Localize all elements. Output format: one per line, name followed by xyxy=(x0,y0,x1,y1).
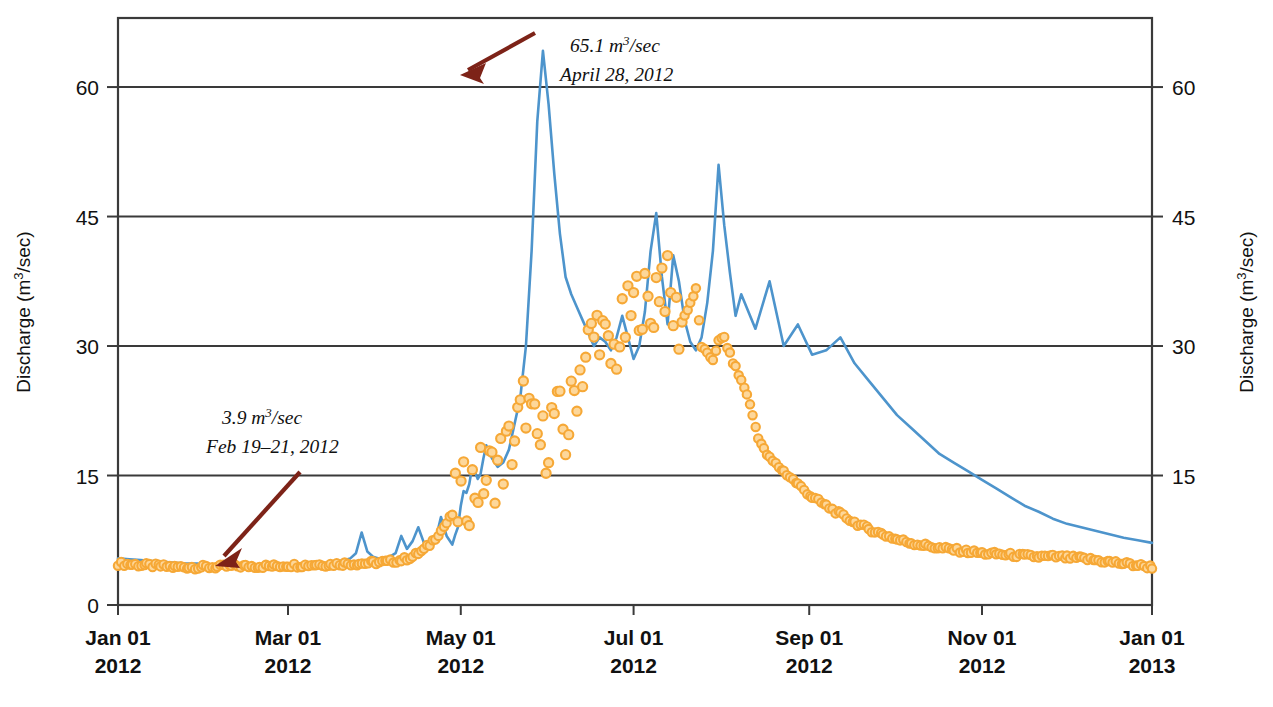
y-axis-title-left-post: /sec) xyxy=(13,231,34,272)
orange-data-point xyxy=(604,331,613,340)
y-tick-label-left-15: 15 xyxy=(76,465,99,488)
x-tick-label-month-0: Jan 01 xyxy=(85,626,151,649)
y-axis-title-right-post: /sec) xyxy=(1236,231,1257,272)
orange-data-point xyxy=(663,251,672,260)
orange-data-point xyxy=(751,423,759,431)
y-tick-label-left-30: 30 xyxy=(76,335,99,358)
orange-data-point xyxy=(538,411,547,420)
orange-data-point xyxy=(652,273,661,282)
orange-data-point xyxy=(507,460,516,469)
discharge-hydrograph-chart: 015304560 15304560 Jan 012012Mar 012012M… xyxy=(0,0,1273,707)
y-tick-label-left-45: 45 xyxy=(76,206,99,229)
y-axis-title-right: Discharge (m3/sec) xyxy=(1234,231,1257,392)
x-tick-label-year-5: 2012 xyxy=(959,654,1006,677)
y-axis-title-right-sup: 3 xyxy=(1234,272,1249,279)
orange-data-point xyxy=(575,365,584,374)
orange-data-point xyxy=(456,476,465,485)
svg-text:Discharge (m3/sec): Discharge (m3/sec) xyxy=(1234,231,1257,392)
orange-data-point xyxy=(709,356,717,364)
x-tick-label-month-5: Nov 01 xyxy=(948,626,1017,649)
x-tick-label-month-6: Jan 01 xyxy=(1119,626,1185,649)
orange-data-point xyxy=(564,430,573,439)
x-tick-label-month-2: May 01 xyxy=(426,626,496,649)
orange-data-point xyxy=(660,307,669,316)
y-axis-title-left-sup: 3 xyxy=(11,272,26,279)
x-tick-label-year-0: 2012 xyxy=(95,654,142,677)
orange-data-point xyxy=(626,311,635,320)
orange-data-point xyxy=(1148,564,1156,572)
orange-data-point xyxy=(541,469,550,478)
orange-data-point xyxy=(544,458,553,467)
orange-data-point xyxy=(581,353,590,362)
x-tick-label-year-3: 2012 xyxy=(610,654,657,677)
orange-data-point xyxy=(748,411,756,419)
orange-data-point xyxy=(561,450,570,459)
y-tick-label-left-60: 60 xyxy=(76,76,99,99)
peak-annotation-line2: April 28, 2012 xyxy=(558,64,673,85)
y-tick-label-right-45: 45 xyxy=(1172,206,1195,229)
orange-data-point xyxy=(615,342,624,351)
y-tick-label-left-0: 0 xyxy=(87,594,99,617)
orange-data-point xyxy=(720,333,728,341)
x-tick-label-year-4: 2012 xyxy=(786,654,833,677)
orange-data-point xyxy=(519,376,528,385)
x-tick-label-year-2: 2012 xyxy=(437,654,484,677)
orange-data-point xyxy=(657,263,666,272)
x-tick-label-year-6: 2013 xyxy=(1129,654,1176,677)
orange-data-point xyxy=(746,400,754,408)
orange-data-point xyxy=(516,395,525,404)
orange-data-point xyxy=(621,333,630,342)
orange-data-point xyxy=(731,362,739,370)
orange-data-point xyxy=(629,288,638,297)
low-flow-annotation-line2: Feb 19–21, 2012 xyxy=(205,436,339,457)
y-axis-title-left-pre: Discharge (m xyxy=(13,280,34,393)
orange-data-point xyxy=(459,457,468,466)
orange-data-point xyxy=(672,293,681,302)
low-flow-annotation-line1: 3.9 m3/sec xyxy=(221,405,303,428)
orange-data-point xyxy=(695,316,703,324)
x-tick-label-year-1: 2012 xyxy=(265,654,312,677)
orange-data-point xyxy=(555,387,564,396)
orange-data-point xyxy=(482,476,491,485)
orange-data-point xyxy=(655,297,664,306)
orange-data-point xyxy=(589,333,598,342)
orange-data-point xyxy=(490,499,499,508)
orange-data-point xyxy=(504,421,513,430)
orange-data-point xyxy=(536,440,545,449)
orange-data-point xyxy=(743,390,751,398)
orange-data-point xyxy=(493,456,502,465)
orange-data-point xyxy=(692,284,700,292)
orange-data-point xyxy=(618,294,627,303)
x-tick-label-month-3: Jul 01 xyxy=(604,626,664,649)
orange-data-point xyxy=(510,436,519,445)
svg-text:Discharge (m3/sec): Discharge (m3/sec) xyxy=(11,231,34,392)
orange-data-point xyxy=(468,465,477,474)
orange-data-point xyxy=(499,479,508,488)
orange-data-point xyxy=(712,347,720,355)
orange-data-point xyxy=(595,350,604,359)
orange-data-point xyxy=(638,325,647,334)
orange-data-point xyxy=(643,292,652,301)
orange-data-point xyxy=(533,429,542,438)
orange-data-point xyxy=(567,377,576,386)
orange-data-point xyxy=(726,348,734,356)
y-tick-label-right-15: 15 xyxy=(1172,465,1195,488)
x-tick-label-month-4: Sep 01 xyxy=(775,626,843,649)
orange-data-point xyxy=(601,320,610,329)
chart-canvas: 015304560 15304560 Jan 012012Mar 012012M… xyxy=(0,0,1273,707)
y-tick-label-right-60: 60 xyxy=(1172,76,1195,99)
orange-data-point xyxy=(572,407,581,416)
orange-data-point xyxy=(640,269,649,278)
peak-annotation-line1: 65.1 m3/sec xyxy=(570,33,660,56)
orange-data-point xyxy=(473,498,482,507)
y-axis-title-left: Discharge (m3/sec) xyxy=(11,231,34,392)
x-tick-label-month-1: Mar 01 xyxy=(255,626,322,649)
orange-data-point xyxy=(479,489,488,498)
orange-data-point xyxy=(465,521,474,530)
orange-data-point xyxy=(674,345,683,354)
y-axis-title-right-pre: Discharge (m xyxy=(1236,280,1257,393)
orange-data-point xyxy=(578,382,587,391)
orange-data-point xyxy=(521,423,530,432)
orange-data-point xyxy=(612,365,621,374)
orange-data-point xyxy=(530,399,539,408)
